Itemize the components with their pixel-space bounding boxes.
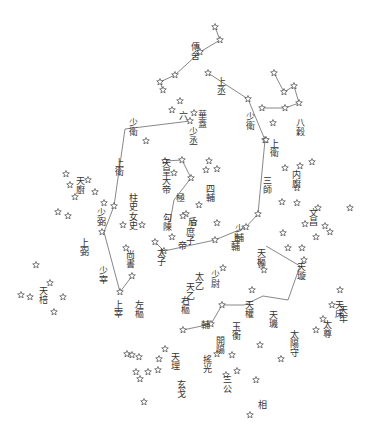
star-label: 柱史: [128, 193, 137, 211]
star-icon: [206, 158, 213, 164]
star-icon: [285, 245, 292, 251]
star-icon: [270, 120, 277, 126]
star-label: 上宰: [113, 300, 122, 318]
star-icon: [60, 294, 67, 300]
star-label: 極: [175, 193, 184, 202]
star-icon: [281, 89, 288, 95]
star-icon: [141, 399, 148, 405]
star-icon: [297, 163, 304, 169]
star-icon: [212, 24, 219, 30]
star-label: 勾陳: [162, 213, 171, 231]
star-icon: [67, 182, 74, 188]
star-icon: [137, 376, 144, 382]
star-icon: [180, 327, 187, 333]
star-icon: [282, 105, 289, 111]
star-icon: [47, 280, 54, 286]
star-label: 上弼: [79, 238, 88, 256]
star-icon: [171, 170, 178, 176]
star-label: 天樞: [256, 248, 265, 266]
constellation-line: [262, 73, 299, 108]
star-label: 天權: [244, 300, 253, 318]
star-icon: [169, 107, 176, 113]
star-icon: [257, 342, 264, 348]
star-label: 少弼: [96, 208, 105, 226]
star-label: 天牢: [338, 305, 347, 323]
star-icon: [136, 354, 143, 360]
star-label: 玄戈: [176, 380, 185, 398]
star-icon: [129, 352, 136, 358]
star-icon: [177, 98, 184, 104]
star-icon: [129, 273, 136, 279]
star-label: 天廚: [75, 176, 84, 194]
star-icon: [313, 234, 320, 240]
star-icon: [27, 294, 34, 300]
star-label: 女史: [128, 212, 137, 230]
star-label: 玉衡: [231, 322, 240, 340]
star-icon: [322, 223, 329, 229]
star-label: 少衛: [245, 112, 254, 130]
star-label: 天理: [170, 352, 179, 370]
star-icon: [63, 171, 70, 177]
star-icon: [133, 369, 140, 375]
star-icon: [296, 100, 303, 106]
star-label: 開陽: [215, 336, 224, 354]
star-label: 文昌: [308, 208, 317, 226]
star-icon: [294, 200, 301, 206]
star-icon: [120, 222, 127, 228]
star-icon: [72, 194, 79, 200]
star-label: 太陽守: [289, 330, 298, 357]
star-icon: [219, 302, 226, 308]
star-icon: [255, 211, 262, 217]
star-label: 天棓: [38, 286, 47, 304]
star-icon: [234, 368, 241, 374]
star-icon: [101, 200, 108, 206]
star-icon: [157, 79, 164, 85]
star-label: 天璇: [296, 262, 305, 280]
star-icon: [196, 202, 203, 208]
star-label: 帝: [177, 241, 186, 250]
star-icon: [33, 262, 40, 268]
star-icon: [282, 165, 289, 171]
star-label: 右樞: [180, 296, 189, 314]
star-label: 内廚: [291, 170, 300, 188]
star-icon: [18, 292, 25, 298]
star-icon: [212, 237, 219, 243]
star-icon: [229, 352, 236, 358]
star-label: 上丞: [216, 77, 225, 95]
star-icon: [271, 70, 278, 76]
star-label: 八穀: [295, 118, 304, 136]
star-icon: [313, 327, 320, 333]
star-label: 傳舍: [190, 42, 199, 60]
star-icon: [139, 222, 146, 228]
star-icon: [51, 309, 58, 315]
star-icon: [162, 346, 169, 352]
star-label: 天璣: [268, 310, 277, 328]
star-label: 太子: [156, 248, 165, 266]
star-icon: [278, 356, 285, 362]
star-label: 上衛: [114, 158, 123, 176]
star-label: 搖光: [202, 355, 211, 373]
star-icon: [188, 175, 195, 181]
star-icon: [55, 209, 62, 215]
star-label: 天皇大帝: [161, 158, 170, 194]
star-icon: [160, 87, 167, 93]
star-icon: [155, 367, 162, 373]
star-label: 三師: [262, 176, 271, 194]
star-icon: [85, 177, 92, 183]
star-label: 四輔: [205, 184, 214, 202]
star-label: 太尊: [322, 320, 331, 338]
star-icon: [259, 105, 266, 111]
star-label: 相: [257, 400, 266, 409]
star-icon: [337, 287, 344, 293]
star-label: 上衛: [269, 139, 278, 157]
star-label: 少宰: [98, 266, 107, 284]
star-icon: [291, 83, 298, 89]
star-icon: [249, 287, 256, 293]
star-label: 尚書: [125, 250, 134, 268]
star-icon: [169, 234, 176, 240]
star-label: 輔: [200, 320, 209, 329]
star-icon: [214, 220, 221, 226]
star-icon: [145, 369, 152, 375]
star-label: 左樞: [134, 300, 143, 318]
star-label: 少衛: [128, 118, 137, 136]
